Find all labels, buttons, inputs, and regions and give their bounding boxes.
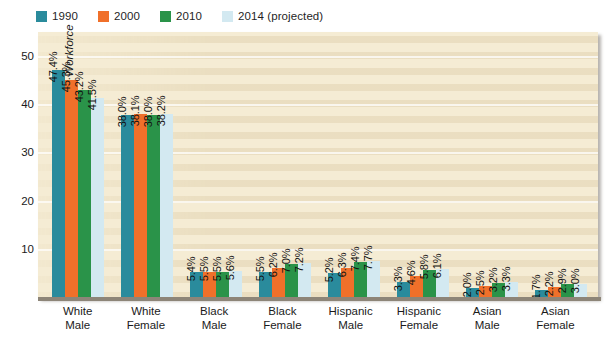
bar-2014[interactable]: 6.1% — [436, 32, 449, 298]
x-axis-label: HispanicFemale — [393, 304, 444, 340]
x-axis-label: AsianMale — [462, 304, 513, 340]
x-axis-label-line1: Hispanic — [393, 304, 444, 318]
x-axis-label-line2: Female — [393, 318, 444, 332]
x-axis-line — [38, 297, 601, 301]
chart-legend: 1990200020102014 (projected) — [36, 8, 323, 24]
bar-rect — [52, 70, 65, 298]
bar-value-label: 6.1% — [431, 253, 443, 278]
bar-2014[interactable]: 3.3% — [505, 32, 518, 298]
x-axis-label-line2: Female — [257, 318, 308, 332]
bar-value-label: 38.1% — [129, 96, 141, 127]
legend-label: 2000 — [114, 10, 140, 22]
bar-2010[interactable]: 2.9% — [561, 32, 574, 298]
legend-label: 2010 — [176, 10, 202, 22]
bar-2014[interactable]: 38.2% — [160, 32, 173, 298]
bar-value-label: 38.2% — [155, 96, 167, 127]
bar-value-label: 7.0% — [280, 249, 292, 274]
bar-2000[interactable]: 2.5% — [479, 32, 492, 298]
x-axis-label-line1: Black — [257, 304, 308, 318]
bar-2014[interactable]: 7.2% — [298, 32, 311, 298]
bar-value-label: 47.4% — [47, 51, 59, 82]
y-tick-label: 10 — [10, 243, 34, 255]
bar-value-label: 5.5% — [198, 256, 210, 281]
x-axis-label-line2: Male — [325, 318, 376, 332]
bar-group: 5.4%5.5%5.5%5.6% — [190, 32, 242, 298]
x-axis-label-line2: Male — [52, 318, 103, 332]
bar-rect — [147, 115, 160, 298]
bar-group: 2.0%2.5%3.2%3.3% — [466, 32, 518, 298]
bar-value-label: 5.5% — [211, 256, 223, 281]
bar-value-label: 5.6% — [224, 256, 236, 281]
bar-groups: 47.4%45.3%43.2%41.5%38.0%38.1%38.0%38.2%… — [38, 32, 598, 298]
bar-rect — [65, 80, 78, 298]
bar-group: 5.5%6.2%7.0%7.2% — [259, 32, 311, 298]
y-tick-label: 40 — [10, 98, 34, 110]
bar-rect — [121, 115, 134, 298]
bar-rect — [78, 90, 91, 298]
bar-value-label: 45.3% — [60, 61, 72, 92]
x-axis-label: BlackFemale — [257, 304, 308, 340]
bar-2000[interactable]: 38.1% — [134, 32, 147, 298]
bar-group: 38.0%38.1%38.0%38.2% — [121, 32, 173, 298]
bar-value-label: 6.3% — [336, 252, 348, 277]
y-tick-label: 30 — [10, 146, 34, 158]
x-axis-label-line2: Male — [189, 318, 240, 332]
bar-1990[interactable]: 2.0% — [466, 32, 479, 298]
bar-value-label: 5.4% — [185, 257, 197, 282]
legend-item-2014[interactable]: 2014 (projected) — [222, 10, 323, 22]
bar-value-label: 41.5% — [86, 80, 98, 111]
x-axis-label-line1: White — [120, 304, 171, 318]
bar-value-label: 1.7% — [530, 274, 542, 299]
bar-value-label: 38.0% — [142, 97, 154, 128]
bar-value-label: 7.2% — [293, 248, 305, 273]
bar-1990[interactable]: 1.7% — [535, 32, 548, 298]
legend-item-1990[interactable]: 1990 — [36, 10, 78, 22]
bar-value-label: 7.4% — [349, 247, 361, 272]
bar-1990[interactable]: 38.0% — [121, 32, 134, 298]
y-tick-label: 20 — [10, 195, 34, 207]
x-axis-label-line1: Hispanic — [325, 304, 376, 318]
bar-1990[interactable]: 3.3% — [397, 32, 410, 298]
bar-2014[interactable]: 3.0% — [574, 32, 587, 298]
x-axis-label-line1: Black — [189, 304, 240, 318]
bar-value-label: 43.2% — [73, 72, 85, 103]
legend-swatch-icon — [98, 11, 109, 22]
bar-2000[interactable]: 2.2% — [548, 32, 561, 298]
bar-value-label: 3.0% — [569, 268, 581, 293]
bar-value-label: 2.2% — [543, 272, 555, 297]
x-axis-labels: WhiteMaleWhiteFemaleBlackMaleBlackFemale… — [38, 304, 598, 340]
bar-rect — [91, 98, 104, 298]
bar-value-label: 2.9% — [556, 269, 568, 294]
legend-swatch-icon — [160, 11, 171, 22]
x-axis-label: HispanicMale — [325, 304, 376, 340]
x-axis-label-line2: Female — [530, 318, 581, 332]
legend-label: 1990 — [52, 10, 78, 22]
legend-item-2000[interactable]: 2000 — [98, 10, 140, 22]
bar-2014[interactable]: 7.7% — [367, 32, 380, 298]
grouped-bar-chart: 1990200020102014 (projected) Percentage … — [0, 0, 613, 343]
bar-2010[interactable]: 43.2% — [78, 32, 91, 298]
bar-group: 47.4%45.3%43.2%41.5% — [52, 32, 104, 298]
bar-value-label: 2.0% — [461, 273, 473, 298]
legend-swatch-icon — [222, 11, 233, 22]
x-axis-label-line2: Male — [462, 318, 513, 332]
bar-rect — [134, 114, 147, 298]
bar-2014[interactable]: 41.5% — [91, 32, 104, 298]
x-axis-label: AsianFemale — [530, 304, 581, 340]
x-axis-label-line1: Asian — [462, 304, 513, 318]
bar-value-label: 2.5% — [474, 271, 486, 296]
bar-value-label: 3.2% — [487, 267, 499, 292]
x-axis-label: WhiteFemale — [120, 304, 171, 340]
x-axis-label-line1: White — [52, 304, 103, 318]
bar-value-label: 4.6% — [405, 261, 417, 286]
x-axis-label: WhiteMale — [52, 304, 103, 340]
bar-group: 3.3%4.6%5.8%6.1% — [397, 32, 449, 298]
legend-item-2010[interactable]: 2010 — [160, 10, 202, 22]
bar-value-label: 5.8% — [418, 255, 430, 280]
bar-2010[interactable]: 38.0% — [147, 32, 160, 298]
legend-label: 2014 (projected) — [238, 10, 323, 22]
bar-group: 1.7%2.2%2.9%3.0% — [535, 32, 587, 298]
bar-2014[interactable]: 5.6% — [229, 32, 242, 298]
x-axis-label: BlackMale — [189, 304, 240, 340]
bar-2010[interactable]: 3.2% — [492, 32, 505, 298]
